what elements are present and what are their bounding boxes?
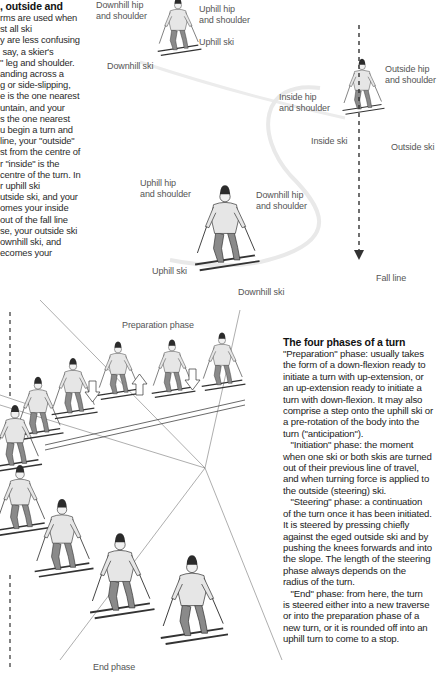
intro-line: g or side-slipping, bbox=[0, 79, 150, 90]
phases-line: turn ("anticipation"). bbox=[283, 428, 443, 439]
label-downhill-hip-top: Downhill hip and shoulder bbox=[96, 0, 147, 21]
phases-line: against the eged outside ski and by bbox=[283, 531, 443, 542]
phases-line: phase always depends on the bbox=[283, 565, 443, 576]
phases-line: of the turn once it has been initiated. bbox=[283, 508, 443, 519]
label-downhill-ski-top: Downhill ski bbox=[107, 61, 153, 72]
label-uphill-hip-top: Uphill hip and shoulder bbox=[199, 4, 250, 25]
intro-text-block: , outside and rms are used when st all s… bbox=[0, 0, 150, 258]
label-uphill-ski-top: Uphill ski bbox=[199, 37, 234, 48]
intro-line: untain, and your bbox=[0, 102, 150, 113]
label-downhill-hip-mid: Downhill hip and shoulder bbox=[256, 190, 307, 211]
intro-line: y are less confusing bbox=[0, 34, 150, 45]
intro-line: s the one nearest bbox=[0, 113, 150, 124]
label-fall-line: Fall line bbox=[376, 273, 406, 284]
intro-line: e is the one nearest bbox=[0, 90, 150, 101]
phases-heading: The four phases of a turn bbox=[283, 336, 443, 348]
intro-line: utside ski, and your bbox=[0, 191, 150, 202]
phases-line: an up-extension ready to initiate a bbox=[283, 382, 443, 393]
phases-line: uphill turn to come to a stop. bbox=[283, 633, 443, 644]
intro-line: out of the fall line bbox=[0, 214, 150, 225]
intro-line: st all ski bbox=[0, 23, 150, 34]
four-phases-text-block: The four phases of a turn "Preparation" … bbox=[283, 336, 443, 645]
phases-line: and when turning force is applied to bbox=[283, 473, 443, 484]
label-uphill-ski-mid: Uphill ski bbox=[152, 266, 187, 277]
phases-line: the form of a down-flexion ready to bbox=[283, 359, 443, 370]
phases-line: pushing the knees forwards and into bbox=[283, 542, 443, 553]
phases-line: turn with down-flexion. It may also bbox=[283, 394, 443, 405]
intro-line: omes your inside bbox=[0, 202, 150, 213]
intro-line: ecomes your bbox=[0, 247, 150, 258]
phases-line: comprise a step onto the uphill ski or bbox=[283, 405, 443, 416]
phases-line: radius of the turn. bbox=[283, 576, 443, 587]
phases-line: It is steered by pressing chiefly bbox=[283, 519, 443, 530]
intro-line: centre of the turn. In bbox=[0, 169, 150, 180]
label-inside-hip: Inside hip and shoulder bbox=[279, 92, 330, 113]
label-preparation-phase: Preparation phase bbox=[122, 320, 194, 331]
intro-line: ownhill ski, and bbox=[0, 236, 150, 247]
phases-line: "Steering" phase: a continuation bbox=[283, 496, 443, 507]
phases-line: "Initiation" phase: the moment bbox=[283, 439, 443, 450]
phases-line: "End" phase: from here, the turn bbox=[283, 588, 443, 599]
label-inside-ski: Inside ski bbox=[311, 136, 348, 147]
label-downhill-ski-mid: Downhill ski bbox=[238, 287, 284, 298]
intro-line: say, a skier's bbox=[0, 46, 150, 57]
phases-line: a pre-rotation of the body into the bbox=[283, 416, 443, 427]
intro-line: line, your "outside" bbox=[0, 135, 150, 146]
intro-line: r "inside" is the bbox=[0, 158, 150, 169]
label-outside-ski: Outside ski bbox=[391, 142, 434, 153]
phases-line: out of their previous line of travel, bbox=[283, 462, 443, 473]
phases-line: when one ski or both skis are turned bbox=[283, 451, 443, 462]
phases-line: is steered either into a new traverse bbox=[283, 599, 443, 610]
phases-line: initiate a turn with up-extension, or bbox=[283, 371, 443, 382]
intro-line: r uphill ski bbox=[0, 180, 150, 191]
phases-line: the outside (steering) ski. bbox=[283, 485, 443, 496]
phases-line: new turn, or it is rounded off into an bbox=[283, 622, 443, 633]
phases-line: or into the preparation phase of a bbox=[283, 610, 443, 621]
intro-line: st from the centre of bbox=[0, 146, 150, 157]
label-outside-hip: Outside hip and shoulder bbox=[385, 64, 436, 85]
label-end-phase: End phase bbox=[93, 662, 135, 673]
phases-line: the slope. The length of the steering bbox=[283, 553, 443, 564]
intro-line: se, your outside ski bbox=[0, 225, 150, 236]
intro-line: u begin a turn and bbox=[0, 124, 150, 135]
label-uphill-hip-mid: Uphill hip and shoulder bbox=[140, 178, 191, 199]
phases-line: "Preparation" phase: usually takes bbox=[283, 348, 443, 359]
